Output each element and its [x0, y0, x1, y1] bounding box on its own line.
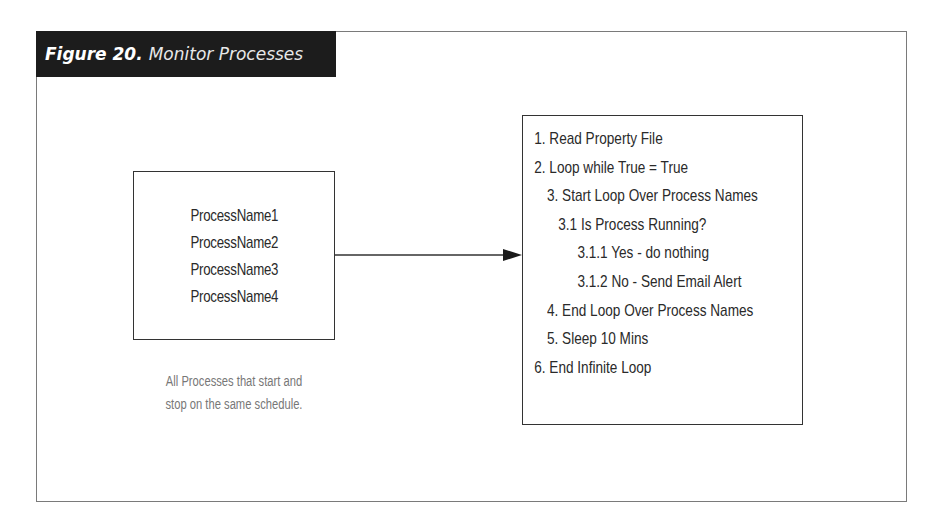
- step-item: 1. Read Property File: [523, 125, 746, 154]
- process-list-box: ProcessName1 ProcessName2 ProcessName3 P…: [133, 171, 335, 340]
- arrow-right-icon: [335, 248, 522, 262]
- step-item: 5. Sleep 10 Mins: [523, 325, 746, 354]
- process-list-caption: All Processes that start and stop on the…: [153, 370, 315, 416]
- caption-line: All Processes that start and: [153, 370, 315, 393]
- process-name: ProcessName2: [190, 229, 278, 256]
- process-name: ProcessName3: [190, 256, 278, 283]
- step-item: 3.1 Is Process Running?: [523, 211, 746, 240]
- caption-line: stop on the same schedule.: [153, 393, 315, 416]
- algorithm-steps-box: 1. Read Property File 2. Loop while True…: [522, 115, 803, 425]
- process-name: ProcessName4: [190, 283, 278, 310]
- step-item: 3.1.2 No - Send Email Alert: [523, 268, 746, 297]
- step-item: 4. End Loop Over Process Names: [523, 297, 746, 326]
- step-item: 6. End Infinite Loop: [523, 354, 746, 383]
- step-item: 2. Loop while True = True: [523, 154, 746, 183]
- process-name: ProcessName1: [190, 202, 278, 229]
- figure-title: Monitor Processes: [149, 44, 304, 64]
- figure-label: Figure 20.: [45, 44, 143, 64]
- step-item: 3. Start Loop Over Process Names: [523, 182, 746, 211]
- step-item: 3.1.1 Yes - do nothing: [523, 239, 746, 268]
- figure-title-bar: Figure 20. Monitor Processes: [36, 31, 336, 77]
